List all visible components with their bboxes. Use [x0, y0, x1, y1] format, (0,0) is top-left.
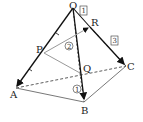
label-B: B: [81, 105, 88, 116]
circle-1-label: 1: [75, 86, 79, 94]
tick-mark: [56, 33, 59, 35]
label-Q: Q: [83, 63, 91, 74]
label-A: A: [9, 89, 18, 100]
box-3-label: 3: [113, 37, 117, 45]
segment-PQ: [44, 53, 80, 73]
segment-PR: [44, 28, 88, 53]
vector-OC: [90, 27, 124, 64]
label-O: O: [69, 0, 77, 11]
label-R: R: [91, 17, 99, 28]
edge-AC: [16, 66, 126, 88]
vector-OA: [17, 8, 73, 86]
circle-2-label: 2: [67, 43, 71, 51]
tick-mark: [29, 69, 32, 71]
box-1-label: 1: [82, 7, 86, 15]
label-P: P: [36, 44, 43, 55]
label-C: C: [127, 61, 135, 72]
tetrahedron-diagram: O R C P Q A B 1 3 2 1: [0, 0, 143, 122]
